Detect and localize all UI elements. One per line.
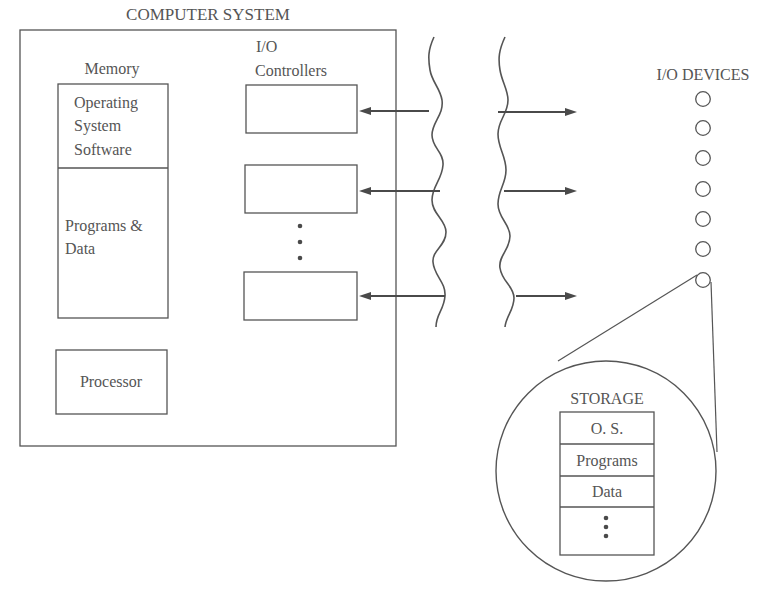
memory-os-line2: System (74, 117, 122, 135)
io-controllers-label-line2: Controllers (255, 62, 327, 79)
arrow-to-device-2 (504, 187, 577, 195)
diagram-title: COMPUTER SYSTEM (126, 5, 290, 24)
io-device-storage-icon (696, 273, 711, 288)
io-controller-box-1 (246, 85, 357, 133)
arrow-to-controller-3 (359, 292, 445, 300)
zoom-line-left (558, 275, 697, 361)
memory-os-line3: Software (74, 141, 132, 158)
computer-system-diagram: COMPUTER SYSTEM Memory Operating System … (0, 0, 780, 593)
storage-table: O. S. Programs Data (560, 412, 654, 555)
io-controller-box-2 (245, 165, 357, 213)
arrow-to-controller-1 (359, 107, 429, 115)
storage-ellipsis-icon (604, 516, 609, 539)
io-device-icon (696, 121, 711, 136)
io-device-icon (696, 242, 711, 257)
memory-pd-line2: Data (65, 240, 95, 257)
bus-break-left (429, 37, 446, 327)
io-device-icon (696, 151, 711, 166)
processor-label: Processor (80, 373, 143, 390)
memory-os-line1: Operating (74, 94, 138, 112)
storage-row-data: Data (592, 483, 622, 500)
io-device-list (696, 92, 711, 288)
storage-row-programs: Programs (576, 452, 637, 470)
io-controller-box-3 (244, 272, 357, 320)
io-controllers-label-line1: I/O (256, 38, 277, 55)
io-devices-label: I/O DEVICES (657, 66, 750, 83)
arrow-to-device-3 (516, 292, 577, 300)
bus-break-right (498, 37, 514, 327)
storage-row-os: O. S. (591, 420, 623, 437)
memory-label: Memory (84, 60, 139, 78)
storage-label: STORAGE (570, 390, 644, 407)
io-device-icon (696, 92, 711, 107)
io-controllers-ellipsis-icon (298, 224, 303, 261)
io-device-icon (696, 182, 711, 197)
arrow-to-controller-2 (359, 187, 440, 195)
io-device-icon (696, 212, 711, 227)
zoom-line-right (711, 282, 717, 452)
arrow-to-device-1 (498, 108, 577, 116)
computer-system-box (20, 30, 396, 446)
memory-pd-line1: Programs & (65, 217, 143, 235)
